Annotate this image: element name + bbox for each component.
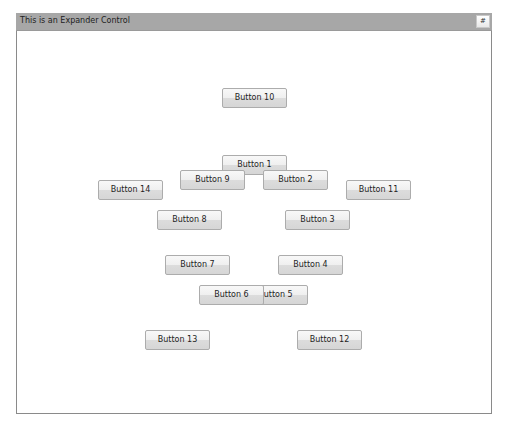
button-8[interactable]: Button 8 xyxy=(157,210,222,230)
button-13[interactable]: Button 13 xyxy=(145,330,210,350)
button-14[interactable]: Button 14 xyxy=(98,180,163,200)
expander-content-panel xyxy=(16,13,492,414)
expander-title: This is an Expander Control xyxy=(20,16,130,25)
button-11[interactable]: Button 11 xyxy=(346,180,411,200)
button-4[interactable]: Button 4 xyxy=(278,255,343,275)
button-6[interactable]: Button 6 xyxy=(199,285,264,305)
button-3[interactable]: Button 3 xyxy=(285,210,350,230)
button-2[interactable]: Button 2 xyxy=(263,170,328,190)
expander-toggle-button[interactable]: # xyxy=(476,15,490,28)
expander-header[interactable]: This is an Expander Control # xyxy=(16,13,492,31)
button-12[interactable]: Button 12 xyxy=(297,330,362,350)
button-9[interactable]: Button 9 xyxy=(180,170,245,190)
button-10[interactable]: Button 10 xyxy=(222,88,287,108)
button-7[interactable]: Button 7 xyxy=(165,255,230,275)
